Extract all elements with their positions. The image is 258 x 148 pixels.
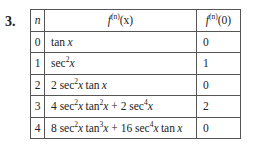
header-fn-x: f(n)(x) <box>45 10 197 32</box>
derivatives-table: n f(n)(x) f(n)(0) 0 tan x 0 1 sec2x 1 2 … <box>30 9 241 139</box>
cell-n: 4 <box>31 117 45 139</box>
cell-value: 0 <box>197 74 241 96</box>
cell-n: 3 <box>31 96 45 118</box>
table-row: 3 4 sec2x tan2x + 2 sec4x 2 <box>31 96 241 118</box>
cell-value: 2 <box>197 96 241 118</box>
cell-expression: sec2x <box>45 53 197 75</box>
cell-value: 0 <box>197 31 241 53</box>
cell-expression: 4 sec2x tan2x + 2 sec4x <box>45 96 197 118</box>
cell-n: 0 <box>31 31 45 53</box>
header-n: n <box>31 10 45 32</box>
table-row: 4 8 sec2x tan3x + 16 sec4x tan x 0 <box>31 117 241 139</box>
problem-number: 3. <box>5 14 16 30</box>
cell-value: 0 <box>197 117 241 139</box>
cell-value: 1 <box>197 53 241 75</box>
cell-expression: 8 sec2x tan3x + 16 sec4x tan x <box>45 117 197 139</box>
cell-expression: tan x <box>45 31 197 53</box>
table-row: 0 tan x 0 <box>31 31 241 53</box>
table-row: 2 2 sec2x tan x 0 <box>31 74 241 96</box>
header-row: n f(n)(x) f(n)(0) <box>31 10 241 32</box>
cell-n: 2 <box>31 74 45 96</box>
cell-expression: 2 sec2x tan x <box>45 74 197 96</box>
cell-n: 1 <box>31 53 45 75</box>
table-row: 1 sec2x 1 <box>31 53 241 75</box>
header-fn-0: f(n)(0) <box>197 10 241 32</box>
